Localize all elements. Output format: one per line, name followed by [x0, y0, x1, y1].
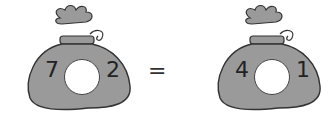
blank-circle[interactable]: [64, 59, 100, 95]
right-number: 2: [106, 59, 120, 81]
left-number: 4: [235, 59, 249, 81]
right-money-bag: 4 1: [200, 0, 328, 120]
right-number: 1: [296, 59, 310, 81]
equals-sign: =: [148, 60, 166, 82]
blank-circle[interactable]: [254, 59, 290, 95]
left-number: 7: [45, 59, 59, 81]
left-money-bag: 7 2: [10, 0, 150, 120]
